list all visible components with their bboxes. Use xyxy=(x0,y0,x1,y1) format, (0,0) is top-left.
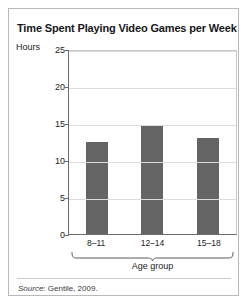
x-axis-label: Age group xyxy=(68,261,237,271)
y-tick-mark xyxy=(65,198,69,199)
y-tick-label: 20 xyxy=(43,83,65,92)
x-axis-tick-labels: 8–1112–1415–18 xyxy=(68,238,237,248)
bar-series xyxy=(69,51,236,234)
y-tick-label: 25 xyxy=(43,46,65,55)
y-tick-mark xyxy=(65,87,69,88)
source-divider xyxy=(17,278,231,279)
bar xyxy=(197,138,219,234)
gridline xyxy=(69,162,236,163)
plot-area xyxy=(68,50,237,235)
y-axis-label: Hours xyxy=(16,42,40,52)
bar xyxy=(86,142,108,235)
gridline xyxy=(69,125,236,126)
age-group-brace xyxy=(71,252,234,261)
x-tick-label: 12–14 xyxy=(130,238,174,248)
source-label: Source xyxy=(18,284,43,293)
bar xyxy=(141,125,163,234)
gridline xyxy=(69,199,236,200)
y-tick-label: 10 xyxy=(43,157,65,166)
gridline xyxy=(69,51,236,52)
y-tick-mark xyxy=(65,124,69,125)
x-tick-label: 8–11 xyxy=(74,238,118,248)
y-tick-mark xyxy=(65,161,69,162)
y-tick-mark xyxy=(65,235,69,236)
chart-title: Time Spent Playing Video Games per Week xyxy=(17,22,237,34)
y-axis-tick-labels: 0510152025 xyxy=(39,50,65,235)
figure-frame: Time Spent Playing Video Games per Week … xyxy=(8,8,239,296)
y-tick-mark xyxy=(65,50,69,51)
y-tick-label: 0 xyxy=(43,231,65,240)
x-tick-label: 15–18 xyxy=(187,238,231,248)
y-tick-label: 15 xyxy=(43,120,65,129)
source-citation: : Gentile, 2009. xyxy=(43,284,97,293)
y-tick-label: 5 xyxy=(43,194,65,203)
source-note: Source: Gentile, 2009. xyxy=(18,284,98,293)
gridline xyxy=(69,88,236,89)
